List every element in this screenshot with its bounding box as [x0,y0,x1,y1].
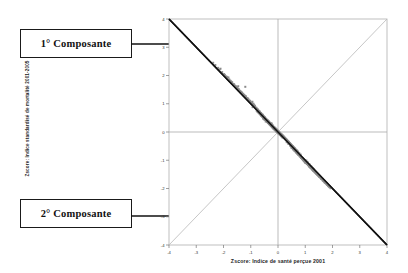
x-tick-label: 0 [277,250,280,255]
x-tick-label: -1 [249,250,253,255]
x-tick-label: 4 [386,250,389,255]
x-tick-label: 1 [304,250,307,255]
x-axis-title: Zscore: Indice de santé perçue 2001 [168,258,388,264]
y-tick-label: 1 [162,101,165,106]
y-tick-label: -4 [161,243,165,248]
y-axis-title: Zscore: Indice standardisé de mortalité … [25,35,30,203]
y-tick-label: -3 [161,214,165,219]
x-tick-label: -4 [167,250,171,255]
x-tick-label: 3 [359,250,362,255]
y-tick-label: 4 [162,17,165,22]
x-tick-label: -3 [194,250,198,255]
scatter-plot-canvas: -4-3-2-101234-4-3-2-101234 [0,0,408,273]
y-tick-label: 2 [162,73,165,78]
y-tick-label: 3 [162,45,165,50]
x-tick-label: 2 [331,250,334,255]
x-tick-label: -2 [222,250,226,255]
y-tick-label: 0 [162,130,165,135]
scatter-plot: -4-3-2-101234-4-3-2-101234 Zscore: Indic… [0,0,408,273]
figure-root: 1° Composante 2° Composante -4-3-2-10123… [0,0,408,273]
y-tick-label: -2 [161,186,165,191]
y-tick-label: -1 [161,158,165,163]
